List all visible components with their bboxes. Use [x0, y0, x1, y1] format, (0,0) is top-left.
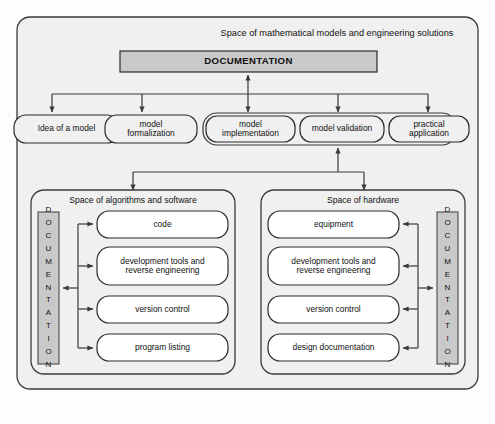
node-version-control-software: [97, 296, 228, 323]
node-idea: [14, 115, 119, 143]
node-equipment: [268, 211, 399, 238]
node-program-listing: [97, 334, 228, 361]
diagram-graphics: [0, 0, 495, 424]
node-version-control-hardware: [268, 296, 399, 323]
node-code: [97, 211, 228, 238]
node-application: [389, 116, 469, 142]
node-formalization: [105, 115, 197, 143]
node-implementation: [206, 116, 295, 142]
diagram-canvas: Space of mathematical models and enginee…: [0, 0, 495, 424]
node-dev-tools-hardware: [268, 247, 399, 285]
node-validation: [300, 116, 384, 142]
documentation-bar-hardware: [437, 212, 458, 364]
node-design-documentation: [268, 334, 399, 361]
node-dev-tools-software: [97, 247, 228, 285]
documentation-bar-top: [120, 51, 377, 72]
documentation-bar-algorithms: [38, 212, 59, 364]
